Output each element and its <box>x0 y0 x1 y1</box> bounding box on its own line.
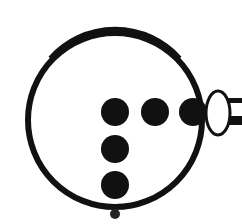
dot-1 <box>101 98 129 126</box>
diagram-canvas: Circle containing an L-shaped arrangemen… <box>0 0 242 224</box>
dot-circle-diagram <box>0 0 242 224</box>
dot-4 <box>101 135 129 163</box>
dot-group <box>101 98 207 199</box>
dot-5 <box>101 171 129 199</box>
connector-oval <box>206 91 230 135</box>
dot-3 <box>179 98 207 126</box>
small-dot <box>110 209 120 219</box>
dot-2 <box>141 98 169 126</box>
